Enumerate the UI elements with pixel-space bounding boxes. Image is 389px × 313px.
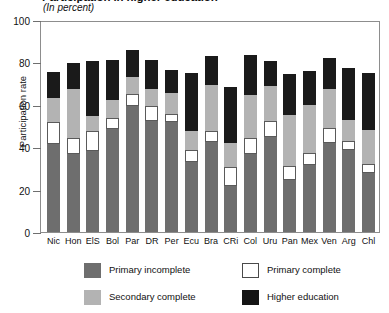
bar-column[interactable] — [67, 22, 80, 232]
bar-column[interactable] — [126, 22, 139, 232]
x-axis-label: Chl — [362, 236, 376, 246]
bar-segment — [145, 89, 158, 106]
bar-segment — [303, 153, 316, 166]
bar-segment — [106, 129, 119, 232]
bar-column[interactable] — [244, 22, 257, 232]
chart-legend: Primary incompletePrimary completeSecond… — [84, 262, 384, 310]
bar-segment — [165, 93, 178, 114]
bar-column[interactable] — [205, 22, 218, 232]
chart-root: Participation in higher education (In pe… — [0, 0, 389, 313]
bar-segment — [244, 138, 257, 154]
legend-swatch — [84, 290, 101, 305]
bar-segment — [145, 60, 158, 89]
bar-segment — [362, 130, 375, 164]
legend-label: Primary complete — [267, 264, 341, 275]
y-axis-tick — [33, 148, 41, 149]
bar-segment — [47, 122, 60, 144]
y-axis-tick-label: 40 — [0, 143, 30, 154]
x-axis-label: Arg — [342, 236, 356, 246]
bar-segment — [244, 95, 257, 137]
bar-column[interactable] — [47, 22, 60, 232]
bar-column[interactable] — [165, 22, 178, 232]
bar-column[interactable] — [362, 22, 375, 232]
bar-segment — [342, 150, 355, 232]
y-axis-tick-label: 100 — [0, 16, 30, 27]
bar-segment — [86, 131, 99, 151]
legend-label: Primary incomplete — [109, 264, 190, 275]
bar-column[interactable] — [283, 22, 296, 232]
bar-segment — [303, 71, 316, 105]
legend-label: Higher education — [267, 291, 339, 302]
bar-segment — [323, 128, 336, 143]
bar-segment — [67, 63, 80, 88]
bar-segment — [165, 122, 178, 232]
x-axis-label: Par — [125, 236, 139, 246]
bar-segment — [106, 118, 119, 130]
bar-column[interactable] — [323, 22, 336, 232]
bar-column[interactable] — [342, 22, 355, 232]
legend-label: Secondary complete — [109, 291, 196, 302]
y-axis-tick-label: 60 — [0, 100, 30, 111]
bar-segment — [224, 87, 237, 143]
x-axis-label: Nic — [47, 236, 60, 246]
bar-segment — [224, 143, 237, 167]
y-axis-tick — [33, 21, 41, 22]
bar-column[interactable] — [185, 22, 198, 232]
bar-segment — [362, 73, 375, 130]
x-axis-label: Pan — [282, 236, 298, 246]
bar-segment — [205, 56, 218, 85]
y-axis-tick — [33, 191, 41, 192]
legend-swatch — [242, 290, 259, 305]
bar-segment — [323, 58, 336, 89]
y-axis-tick — [33, 63, 41, 64]
bar-column[interactable] — [106, 22, 119, 232]
bar-segment — [264, 61, 277, 85]
bar-series-area — [41, 22, 379, 232]
bar-segment — [244, 154, 257, 232]
x-axis-label: Per — [165, 236, 179, 246]
x-axis-label: Bol — [106, 236, 119, 246]
bar-segment — [106, 100, 119, 118]
x-axis-label: Col — [244, 236, 258, 246]
bar-segment — [185, 150, 198, 162]
bar-segment — [283, 166, 296, 180]
x-axis-label: Ecu — [184, 236, 200, 246]
bar-column[interactable] — [303, 22, 316, 232]
x-axis-label: Mex — [301, 236, 318, 246]
bar-column[interactable] — [145, 22, 158, 232]
y-axis-tick — [33, 106, 41, 107]
bar-segment — [86, 151, 99, 232]
bar-segment — [67, 89, 80, 138]
legend-swatch — [84, 263, 101, 278]
bar-column[interactable] — [86, 22, 99, 232]
bar-segment — [205, 85, 218, 132]
y-axis-tick-label: 0 — [0, 228, 30, 239]
bar-segment — [185, 73, 198, 131]
bar-segment — [126, 94, 139, 106]
bar-segment — [185, 162, 198, 232]
bar-segment — [86, 116, 99, 131]
bar-column[interactable] — [264, 22, 277, 232]
legend-swatch — [242, 263, 259, 278]
bar-segment — [205, 131, 218, 142]
bar-segment — [165, 70, 178, 93]
bar-segment — [126, 50, 139, 78]
bar-segment — [264, 121, 277, 137]
x-axis-label: DR — [145, 236, 158, 246]
y-axis-tick-label: 80 — [0, 58, 30, 69]
bar-segment — [303, 105, 316, 153]
bar-segment — [67, 154, 80, 232]
chart-subtitle: (In percent) — [43, 2, 94, 13]
bar-segment — [362, 164, 375, 172]
bar-segment — [244, 55, 257, 95]
bar-segment — [185, 131, 198, 150]
y-axis-tick-label: 20 — [0, 185, 30, 196]
x-axis-label: Bra — [204, 236, 218, 246]
x-axis-label: Uru — [263, 236, 278, 246]
bar-segment — [126, 106, 139, 232]
bar-column[interactable] — [224, 22, 237, 232]
bar-segment — [283, 180, 296, 232]
bar-segment — [47, 98, 60, 121]
bar-segment — [342, 120, 355, 141]
bar-segment — [264, 137, 277, 232]
